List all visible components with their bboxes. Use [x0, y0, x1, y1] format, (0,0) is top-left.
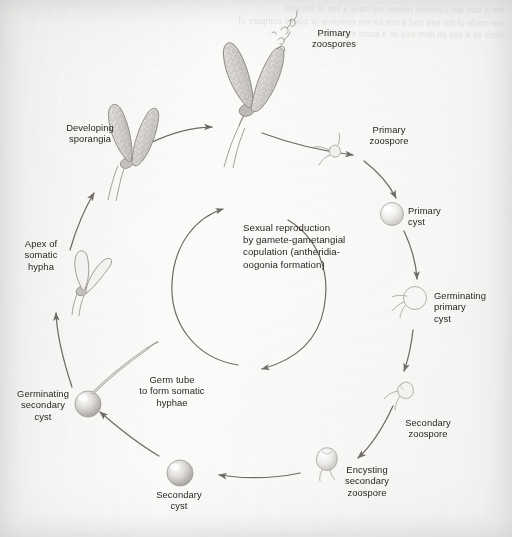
inner-arc-left: [172, 209, 238, 365]
arrow-encysting-to-secondary-cyst: [219, 473, 300, 478]
label-germinating-secondary-cyst: Germinating secondary cyst: [4, 388, 82, 422]
stage-secondary-zoospore: [384, 382, 413, 410]
label-developing-sporangia: Developing sporangia: [42, 122, 138, 145]
arrow-developing-sporangia-to-releasing: [150, 127, 212, 143]
label-germinating-primary-cyst: Germinating primary cyst: [434, 290, 510, 324]
stage-developing-sporangia: [104, 102, 160, 201]
outer-cycle-arrows: [56, 127, 417, 478]
diagram-page: the a sum are common reason not have a l…: [0, 0, 512, 537]
label-secondary-zoospore: Secondary zoospore: [390, 417, 466, 440]
arrow-germinating-secondary-to-hypha-apex: [56, 313, 72, 387]
arrow-secondary-cyst-to-germinating: [100, 412, 159, 456]
label-primary-zoospores: Primary zoospores: [291, 27, 377, 50]
label-germ-tube: Germ tube to form somatic hyphae: [124, 374, 220, 408]
label-primary-zoospore: Primary zoospore: [353, 124, 425, 147]
arrow-primary-zoospore-to-cyst: [364, 161, 396, 198]
arrow-primary-cyst-to-germinating: [404, 231, 417, 279]
stage-secondary-cyst: [167, 460, 193, 486]
stage-sporangia-releasing: [218, 11, 297, 168]
label-apex-of-somatic-hypha: Apex of somatic hypha: [8, 238, 74, 272]
arrow-secondary-zoospore-to-encysting: [358, 406, 393, 458]
label-encysting-secondary-zoospore: Encysting secondary zoospore: [330, 464, 404, 498]
stage-hypha-apex: [72, 251, 112, 316]
stage-germinating-primary-cyst: [392, 287, 427, 319]
label-primary-cyst: Primary cyst: [408, 205, 470, 228]
label-secondary-cyst: Secondary cyst: [141, 489, 217, 512]
arrow-germinating-primary-to-secondary-zoospore: [404, 330, 413, 371]
stage-primary-cyst: [381, 203, 404, 226]
label-sexual-reproduction: Sexual reproduction by gamete-gametangia…: [243, 222, 373, 271]
